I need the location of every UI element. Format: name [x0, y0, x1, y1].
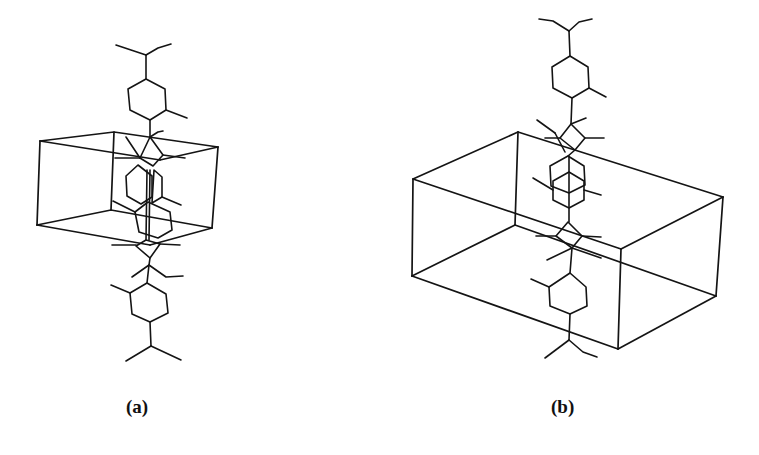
molecule-chain-b [531, 19, 606, 358]
unit-cell-b [412, 132, 723, 349]
panel-b [412, 19, 723, 358]
molecule-chain-a [111, 44, 187, 361]
figure-canvas [0, 0, 759, 455]
panel-label-b: (b) [551, 396, 574, 418]
panel-a [37, 44, 218, 361]
unit-cell-a [37, 132, 218, 245]
panel-label-a: (a) [126, 396, 148, 418]
